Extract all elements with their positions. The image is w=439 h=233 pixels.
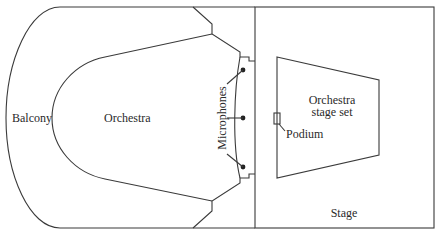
podium-leader <box>279 124 285 131</box>
concert-hall-diagram: Balcony Orchestra Microphones Orchestra … <box>0 0 439 233</box>
balcony-label: Balcony <box>12 111 52 125</box>
orchestra-label: Orchestra <box>104 111 151 125</box>
stage-label: Stage <box>331 206 358 220</box>
microphones-label: Microphones <box>215 86 229 150</box>
microphone-leader <box>227 154 243 167</box>
orchestra-outline <box>193 7 255 61</box>
stage-set-label-line2: stage set <box>312 105 354 119</box>
podium-label: Podium <box>286 127 324 141</box>
microphone-leader <box>227 70 243 84</box>
orchestra-outline-lower <box>193 174 255 228</box>
